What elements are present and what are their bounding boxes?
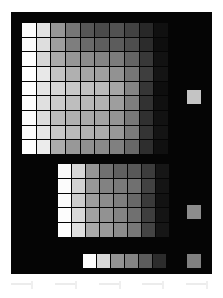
swatch-cell <box>110 140 124 154</box>
swatch-cell <box>125 140 139 154</box>
swatch-cell <box>128 164 141 178</box>
swatch-cell <box>22 38 36 52</box>
swatch-cell <box>58 223 71 237</box>
reference-patch-light <box>187 90 201 104</box>
swatch-cell <box>72 223 85 237</box>
swatch-cell <box>128 179 141 193</box>
swatch-cell <box>66 126 80 140</box>
swatch-cell <box>66 52 80 66</box>
swatch-cell <box>140 67 154 81</box>
swatch-cell <box>81 126 95 140</box>
swatch-cell <box>22 23 36 37</box>
swatch-cell <box>100 164 113 178</box>
swatch-cell <box>128 223 141 237</box>
swatch-cell <box>95 111 109 125</box>
swatch-cell <box>86 164 99 178</box>
swatch-cell <box>51 126 65 140</box>
swatch-cell <box>142 194 155 208</box>
footer-mark-tick <box>75 281 77 289</box>
footer-mark-row <box>11 281 212 295</box>
footer-mark-bar <box>186 283 207 285</box>
swatch-cell <box>154 96 168 110</box>
swatch-cell <box>37 140 51 154</box>
swatch-cell <box>72 208 85 222</box>
swatch-cell <box>114 164 127 178</box>
swatch-cell <box>95 67 109 81</box>
swatch-cell <box>86 223 99 237</box>
primary-swatch-grid <box>22 23 168 154</box>
swatch-cell <box>154 38 168 52</box>
swatch-cell <box>140 140 154 154</box>
swatch-cell <box>140 23 154 37</box>
swatch-cell <box>37 67 51 81</box>
swatch-cell <box>140 52 154 66</box>
swatch-cell <box>156 208 169 222</box>
swatch-cell <box>72 179 85 193</box>
swatch-cell <box>153 254 166 268</box>
footer-mark-3 <box>99 281 125 290</box>
swatch-cell <box>154 23 168 37</box>
swatch-cell <box>51 96 65 110</box>
swatch-cell <box>125 126 139 140</box>
swatch-cell <box>95 140 109 154</box>
swatch-cell <box>22 52 36 66</box>
swatch-cell <box>110 67 124 81</box>
footer-mark-5 <box>186 281 212 290</box>
swatch-cell <box>142 223 155 237</box>
swatch-cell <box>86 179 99 193</box>
swatch-cell <box>81 82 95 96</box>
footer-mark-tick <box>162 281 164 289</box>
swatch-cell <box>66 111 80 125</box>
footer-mark-4 <box>142 281 168 290</box>
swatch-cell <box>110 52 124 66</box>
figure-root <box>0 0 223 298</box>
swatch-cell <box>66 96 80 110</box>
swatch-cell <box>125 67 139 81</box>
swatch-cell <box>156 164 169 178</box>
swatch-cell <box>139 254 152 268</box>
swatch-cell <box>97 254 110 268</box>
swatch-cell <box>100 208 113 222</box>
swatch-cell <box>110 82 124 96</box>
swatch-cell <box>140 126 154 140</box>
swatch-cell <box>114 223 127 237</box>
swatch-cell <box>110 126 124 140</box>
swatch-cell <box>22 140 36 154</box>
footer-mark-2 <box>55 281 81 290</box>
swatch-cell <box>140 96 154 110</box>
swatch-cell <box>37 23 51 37</box>
swatch-cell <box>114 194 127 208</box>
swatch-cell <box>142 208 155 222</box>
swatch-cell <box>86 194 99 208</box>
swatch-cell <box>95 82 109 96</box>
swatch-cell <box>81 38 95 52</box>
swatch-cell <box>58 164 71 178</box>
swatch-cell <box>95 38 109 52</box>
footer-mark-tick <box>119 281 121 289</box>
swatch-cell <box>37 96 51 110</box>
swatch-cell <box>156 194 169 208</box>
reference-patch-dark <box>187 254 201 268</box>
swatch-cell <box>37 82 51 96</box>
footer-mark-bar <box>99 283 120 285</box>
swatch-cell <box>66 140 80 154</box>
swatch-cell <box>58 179 71 193</box>
swatch-cell <box>114 179 127 193</box>
swatch-cell <box>154 111 168 125</box>
swatch-cell <box>125 96 139 110</box>
swatch-cell <box>154 67 168 81</box>
swatch-cell <box>156 223 169 237</box>
swatch-cell <box>142 164 155 178</box>
swatch-cell <box>128 208 141 222</box>
swatch-cell <box>66 67 80 81</box>
swatch-cell <box>22 96 36 110</box>
swatch-cell <box>81 23 95 37</box>
swatch-cell <box>154 52 168 66</box>
chart-panel <box>11 12 212 274</box>
swatch-cell <box>156 179 169 193</box>
swatch-cell <box>125 111 139 125</box>
swatch-cell <box>154 140 168 154</box>
swatch-cell <box>81 52 95 66</box>
swatch-cell <box>66 38 80 52</box>
swatch-cell <box>95 52 109 66</box>
